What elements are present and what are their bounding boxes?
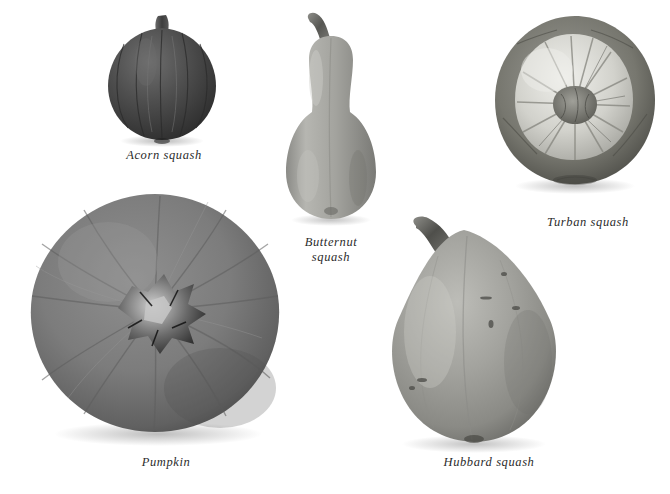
caption-acorn-squash: Acorn squash [64, 148, 264, 163]
caption-pumpkin: Pumpkin [66, 455, 266, 470]
caption-hubbard-squash: Hubbard squash [389, 455, 589, 470]
hubbard-squash-figure [368, 212, 584, 457]
acorn-squash-figure [100, 10, 228, 150]
specimen-pumpkin [12, 188, 298, 452]
specimen-hubbard-squash [368, 212, 584, 457]
specimen-acorn-squash [100, 10, 228, 150]
squash-plate: Acorn squash [0, 0, 670, 494]
pumpkin-figure [12, 188, 298, 452]
specimen-turban-squash [487, 8, 663, 198]
turban-squash-figure [487, 8, 663, 198]
